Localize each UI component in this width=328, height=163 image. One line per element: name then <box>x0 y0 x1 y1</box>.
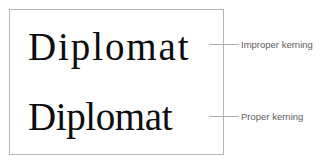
kerning-comparison-figure: Diplomat Diplomat Improper kerning Prope… <box>0 0 328 163</box>
annotation-label-proper: Proper kerning <box>241 111 303 122</box>
leader-line-improper <box>209 44 239 45</box>
specimen-frame: Diplomat Diplomat <box>9 9 224 155</box>
leader-line-proper <box>209 116 239 117</box>
specimen-word-proper: Diplomat <box>28 97 172 136</box>
specimen-word-improper: Diplomat <box>28 27 191 66</box>
annotation-label-improper: Improper kerning <box>241 39 313 50</box>
